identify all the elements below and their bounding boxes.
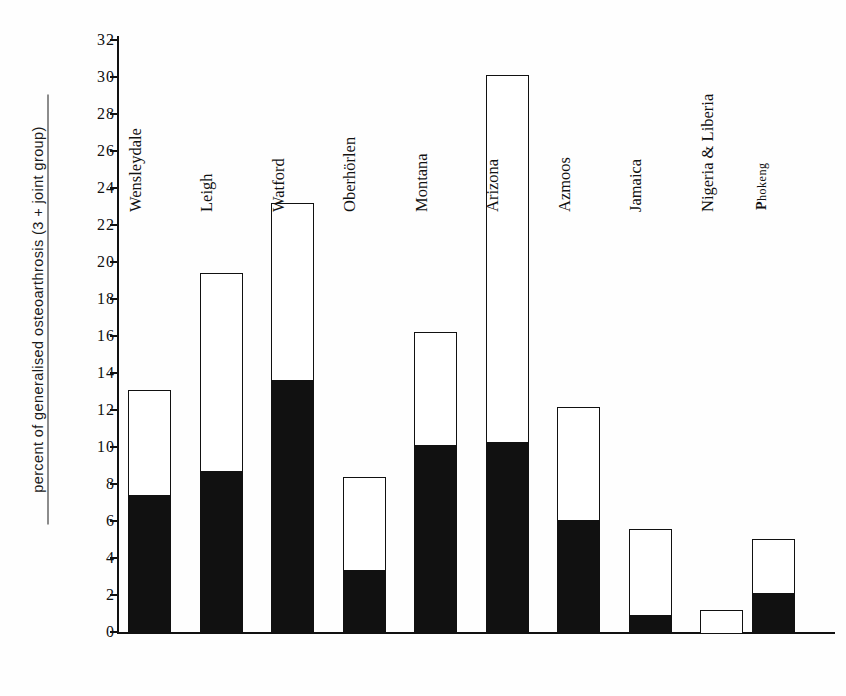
y-tick-mark [110,39,119,41]
bar-segment-filled [272,380,313,633]
bar-segment-filled [129,495,170,633]
bar[interactable] [343,477,386,634]
y-tick-mark [110,483,119,485]
y-tick-mark [110,113,119,115]
y-tick-mark [110,557,119,559]
bar-segment-filled [753,593,794,633]
bar[interactable] [700,610,743,634]
bar-segment-filled [487,442,528,633]
y-tick-mark [110,187,119,189]
y-tick-mark [110,335,119,337]
bar-category-label: Wensleydale [126,128,146,212]
bar-segment-filled [201,471,242,633]
bar-category-label: Arizona [483,159,503,212]
y-tick-mark [110,261,119,263]
bar-category-label: Nigeria & Liberia [698,94,718,212]
y-tick-mark [110,298,119,300]
y-tick-mark [110,409,119,411]
bar[interactable] [629,529,672,634]
bar-category-label: Phokeng [754,163,770,210]
y-tick-mark [110,76,119,78]
y-tick-mark [110,372,119,374]
bar-segment-filled [415,445,456,633]
y-tick-mark [110,631,119,633]
bar-category-label: Azmoos [555,157,575,212]
bar[interactable] [752,539,795,634]
bar-segment-filled [630,615,671,634]
bar[interactable] [128,390,171,634]
bar-segment-filled [558,520,599,633]
bar-category-label: Oberhörlen [340,137,360,212]
y-tick-mark [110,446,119,448]
y-tick-mark [110,224,119,226]
bar-segment-filled [344,570,385,633]
bar-category-label: Watford [269,158,289,212]
bar[interactable] [557,407,600,634]
bar[interactable] [200,273,243,634]
bar-category-label: Leigh [197,174,217,213]
y-tick-mark [110,594,119,596]
bar[interactable] [414,332,457,634]
y-tick-mark [110,520,119,522]
bar-category-label: Jamaica [626,159,646,212]
bar[interactable] [271,203,314,634]
chart-figure: percent of generalised osteoarthrosis (3… [0,0,846,696]
y-axis-title: percent of generalised osteoarthrosis (3… [30,95,49,525]
bar-category-label: Montana [412,153,432,212]
y-tick-mark [110,150,119,152]
